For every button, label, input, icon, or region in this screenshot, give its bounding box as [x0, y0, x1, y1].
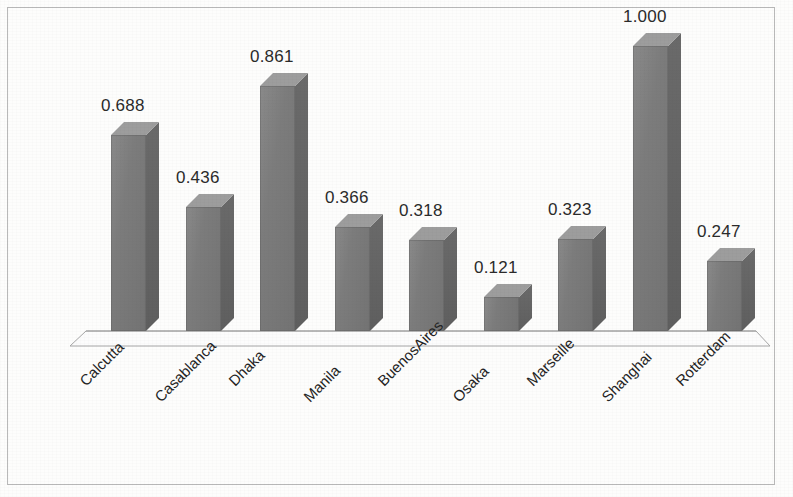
bar-side-face — [146, 122, 159, 331]
bar-front-face — [260, 86, 295, 331]
value-label-marseille: 0.323 — [548, 200, 592, 220]
bar-side-face — [668, 33, 681, 331]
value-label-osaka: 0.121 — [474, 258, 518, 278]
value-label-dhaka: 0.861 — [250, 47, 294, 67]
bar-front-face — [707, 261, 742, 331]
plot-area: 0.6880.4360.8610.3660.3180.1210.3231.000… — [8, 8, 774, 484]
bar-front-face — [335, 227, 370, 331]
value-label-rotterdam: 0.247 — [697, 222, 741, 242]
bar-side-face — [742, 248, 755, 331]
bar-front-face — [186, 207, 221, 331]
value-label-shanghai: 1.000 — [623, 7, 667, 27]
chart-page: 0.6880.4360.8610.3660.3180.1210.3231.000… — [0, 0, 793, 497]
bar-front-face — [111, 135, 146, 331]
value-label-calcutta: 0.688 — [101, 96, 145, 116]
bar-side-face — [221, 194, 234, 331]
bar-front-face — [409, 240, 444, 331]
value-label-manila: 0.366 — [325, 188, 369, 208]
bar-side-face — [444, 227, 457, 331]
value-label-casablanca: 0.436 — [176, 168, 220, 188]
bar-side-face — [370, 214, 383, 331]
bar-side-face — [593, 226, 606, 331]
bar-front-face — [633, 46, 668, 331]
bar-front-face — [558, 239, 593, 331]
value-label-buenosaires: 0.318 — [399, 201, 443, 221]
bar-front-face — [484, 297, 519, 331]
bar-side-face — [295, 73, 308, 331]
chart-border-frame: 0.6880.4360.8610.3660.3180.1210.3231.000… — [7, 7, 775, 485]
